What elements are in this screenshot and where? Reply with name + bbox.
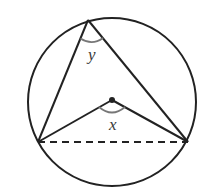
angle-arc-x xyxy=(99,107,125,113)
radius-right xyxy=(112,100,188,142)
circle-angle-diagram: y x xyxy=(0,0,215,191)
angle-arc-y xyxy=(81,38,104,42)
center-point xyxy=(109,97,115,103)
radius-left xyxy=(38,100,112,142)
label-y: y xyxy=(86,45,96,64)
label-x: x xyxy=(108,115,117,134)
chord-left-top xyxy=(38,20,88,142)
